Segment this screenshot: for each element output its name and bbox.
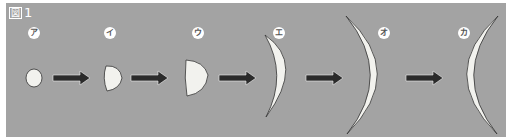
stage-shape-ka (467, 16, 498, 134)
stage-shape-u (185, 60, 208, 96)
stage-shape-a (26, 69, 42, 87)
arrow-icon (53, 71, 90, 85)
arrow-icon (406, 71, 443, 85)
diagram-shapes (6, 3, 506, 137)
stage-shape-o (346, 16, 377, 134)
arrow-icon (219, 71, 256, 85)
diagram-panel: 図 1 ア イ ウ エ オ カ (6, 3, 506, 137)
stage-shape-i (104, 66, 122, 91)
arrow-icon (306, 71, 343, 85)
arrow-icon (131, 71, 168, 85)
stage-shape-e (265, 35, 286, 117)
